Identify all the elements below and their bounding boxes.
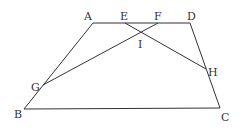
point-label-H: H [208, 66, 218, 79]
point-label-I: I [138, 38, 142, 51]
point-label-E: E [120, 10, 128, 23]
point-label-F: F [154, 10, 162, 23]
point-label-A: A [83, 10, 93, 23]
point-label-B: B [14, 108, 22, 121]
point-label-D: D [187, 10, 196, 23]
segment-AB [24, 23, 93, 109]
diagram-segments [24, 23, 220, 109]
diagram-labels: AEFDIGHBC [14, 10, 229, 124]
point-label-G: G [31, 81, 40, 94]
point-label-C: C [221, 111, 229, 124]
trapezoid-diagram: AEFDIGHBC [0, 0, 242, 128]
segment-BC [24, 108, 220, 109]
